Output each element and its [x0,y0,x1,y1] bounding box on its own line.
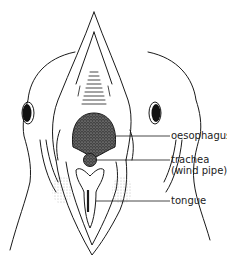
oesophagus-label: oesophagus [171,130,227,141]
left-eye [22,102,34,124]
oesophagus-shape [72,113,115,158]
tongue-label: tongue [171,195,206,206]
right-eye [149,102,161,124]
trachea-sublabel: (wind pipe) [171,165,227,176]
tongue-shape [76,169,104,228]
trachea-label: trachea [171,154,209,165]
trachea-shape [84,154,97,167]
